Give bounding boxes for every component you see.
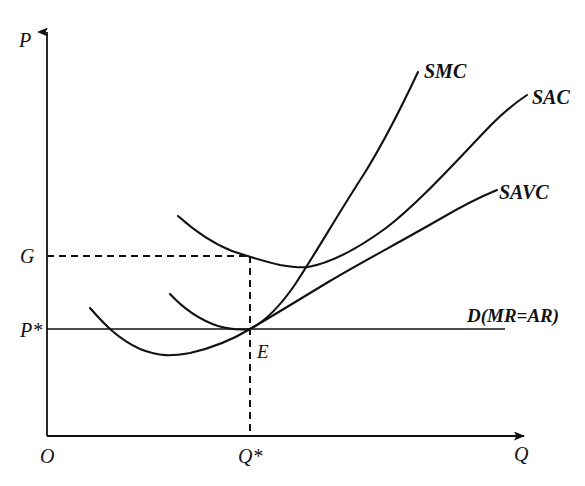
cost-curve-diagram: P Q O G P* Q* E SMC SAC SAVC D(MR=AR) (0, 0, 585, 486)
g-value-label: G (20, 246, 34, 266)
smc-curve-label: SMC (424, 61, 466, 81)
equilibrium-point-label: E (257, 342, 269, 361)
origin-label: O (40, 446, 54, 466)
short-run-marginal-cost-curve (170, 72, 418, 330)
short-run-average-cost-curve (178, 95, 527, 267)
demand-line-label: D(MR=AR) (467, 306, 559, 325)
quantity-axis-label: Q (514, 444, 528, 464)
p-star-value-label: P* (20, 320, 42, 340)
savc-curve-label: SAVC (499, 182, 549, 202)
sac-curve-label: SAC (532, 87, 570, 107)
diagram-canvas (0, 0, 585, 486)
price-axis-label: P (19, 30, 31, 50)
short-run-average-variable-cost-curve (90, 190, 497, 355)
q-star-value-label: Q* (238, 446, 262, 466)
